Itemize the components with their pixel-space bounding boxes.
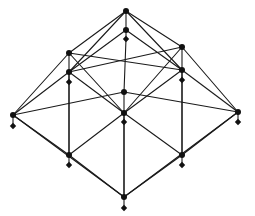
dot-node-icon <box>66 152 72 158</box>
edge-top-ur <box>126 11 182 47</box>
edge-ur2-right <box>182 70 238 112</box>
edge-ll-bottom <box>69 155 124 197</box>
edge-mid2-lr <box>124 113 182 155</box>
edge-mid-right <box>124 92 238 112</box>
lattice-diagram <box>0 0 255 216</box>
dot-node-icon <box>10 112 16 118</box>
diamond-node-icon <box>66 162 72 168</box>
edge-top2-ur2 <box>126 30 182 70</box>
edge-ul-left <box>13 53 69 115</box>
diamond-node-icon <box>121 205 127 211</box>
diamond-node-icon <box>235 119 241 125</box>
dot-node-icon <box>123 8 129 14</box>
edge-ur-mid2 <box>124 47 182 113</box>
diamond-node-icon <box>66 79 72 85</box>
diamond-node-icon <box>179 77 185 83</box>
dot-node-icon <box>121 194 127 200</box>
edge-ul2-left <box>13 72 69 115</box>
dot-node-icon <box>179 67 185 73</box>
dot-node-icon <box>66 69 72 75</box>
diamond-node-icon <box>10 123 16 129</box>
edge-top_d-mid <box>124 39 126 92</box>
edge-ur-right <box>182 47 238 112</box>
dot-node-icon <box>235 109 241 115</box>
dot-node-icon <box>66 50 72 56</box>
edge-ul2-mid2 <box>69 72 124 113</box>
dot-node-icon <box>121 110 127 116</box>
edge-ur2-mid2 <box>124 70 182 113</box>
dot-node-icon <box>179 152 185 158</box>
edge-mid2-ll <box>69 113 124 155</box>
lattice-svg <box>0 0 255 216</box>
diamond-node-icon <box>121 119 127 125</box>
edge-top-ur2 <box>126 11 182 70</box>
edge-top-ul <box>69 11 126 53</box>
diamond-node-icon <box>179 162 185 168</box>
node-group <box>10 8 241 211</box>
dot-node-icon <box>123 27 129 33</box>
diamond-node-icon <box>123 36 129 42</box>
edge-lr-bottom <box>124 155 182 197</box>
dot-node-icon <box>121 89 127 95</box>
dot-node-icon <box>179 44 185 50</box>
